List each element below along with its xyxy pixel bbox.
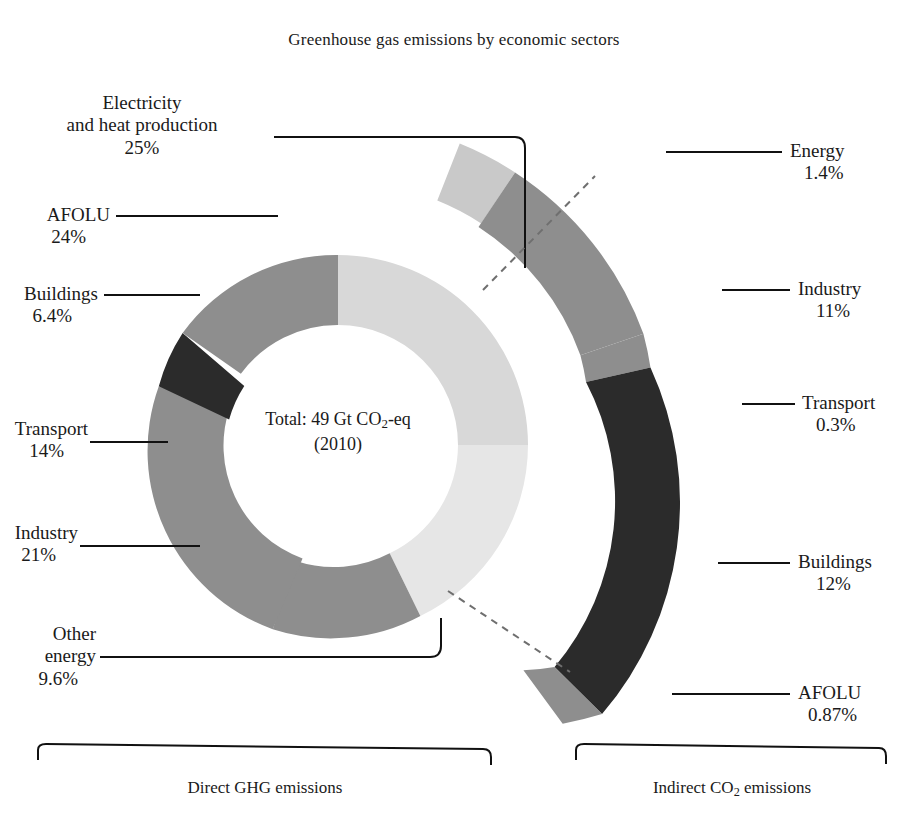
- label-afolu-right-name: AFOLU: [798, 682, 908, 704]
- label-electricity-name-line2: and heat production: [10, 114, 274, 136]
- label-transport-left: Transport 14%: [0, 418, 88, 463]
- figure-root: Greenhouse gas emissions by economic sec…: [0, 0, 908, 826]
- donut-slice-other-energy[interactable]: [390, 445, 528, 616]
- label-transport-right-name: Transport: [802, 392, 908, 414]
- label-transport-left-percent: 14%: [0, 440, 88, 462]
- label-energy-right-name: Energy: [790, 140, 900, 162]
- dashed-connector-bottom: [448, 591, 570, 672]
- label-other-energy-percent: 9.6%: [0, 668, 96, 690]
- label-electricity-name-line1: Electricity: [10, 92, 274, 114]
- leader-lines-right: [666, 152, 795, 694]
- label-energy-right: Energy 1.4%: [790, 140, 900, 185]
- label-transport-right-percent: 0.3%: [802, 414, 908, 436]
- bracket-direct: [38, 744, 491, 765]
- bracket-label-indirect: Indirect CO2 emissions: [622, 778, 842, 800]
- label-buildings-left: Buildings 6.4%: [0, 283, 98, 328]
- donut-center-line1-text: Total: 49 Gt CO: [265, 409, 381, 429]
- bracket-label-indirect-prefix: Indirect CO: [653, 778, 734, 797]
- label-buildings-right-percent: 12%: [798, 573, 908, 595]
- arc-slice-buildings[interactable]: [555, 367, 680, 714]
- label-afolu-left-name: AFOLU: [0, 204, 110, 226]
- label-buildings-right: Buildings 12%: [798, 551, 908, 596]
- label-other-energy-name-line1: Other: [0, 623, 96, 645]
- label-transport-right: Transport 0.3%: [802, 392, 908, 437]
- donut-center-line1-tail: -eq: [388, 409, 411, 429]
- label-electricity-and-heat-production: Electricity and heat production 25%: [10, 92, 274, 159]
- label-energy-right-percent: 1.4%: [790, 162, 900, 184]
- donut-center-label: Total: 49 Gt CO2-eq (2010): [198, 408, 478, 457]
- label-industry-right-name: Industry: [798, 278, 908, 300]
- label-buildings-left-percent: 6.4%: [0, 305, 98, 327]
- bracket-label-direct-text: Direct GHG emissions: [188, 778, 343, 797]
- label-afolu-left: AFOLU 24%: [0, 204, 110, 249]
- label-afolu-left-percent: 24%: [0, 226, 110, 248]
- label-other-energy: Other energy 9.6%: [0, 623, 96, 690]
- donut-center-line1: Total: 49 Gt CO2-eq: [198, 408, 478, 433]
- label-industry-right: Industry 11%: [798, 278, 908, 323]
- arc-slice-industry[interactable]: [479, 172, 644, 355]
- label-industry-left: Industry 21%: [0, 522, 78, 567]
- label-electricity-percent: 25%: [10, 137, 274, 159]
- label-other-energy-name-line2: energy: [0, 645, 96, 667]
- bracket-label-indirect-suffix: emissions: [740, 778, 811, 797]
- label-industry-left-name: Industry: [0, 522, 78, 544]
- label-buildings-left-name: Buildings: [0, 283, 98, 305]
- bottom-brackets: [38, 744, 886, 765]
- label-industry-left-percent: 21%: [0, 544, 78, 566]
- donut-center-line2: (2010): [198, 433, 478, 456]
- label-afolu-right-percent: 0.87%: [798, 704, 908, 726]
- label-afolu-right: AFOLU 0.87%: [798, 682, 908, 727]
- label-buildings-right-name: Buildings: [798, 551, 908, 573]
- bracket-indirect: [576, 744, 886, 764]
- label-industry-right-percent: 11%: [798, 300, 908, 322]
- label-transport-left-name: Transport: [0, 418, 88, 440]
- bracket-label-direct: Direct GHG emissions: [148, 778, 382, 798]
